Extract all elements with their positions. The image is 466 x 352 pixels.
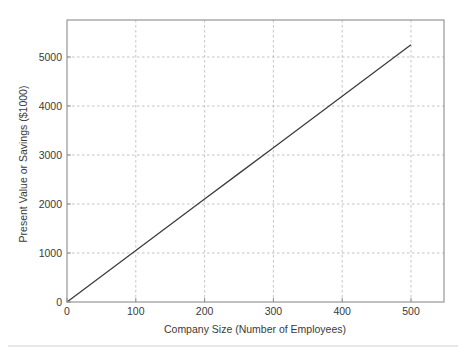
y-tick-label-5000: 5000 — [39, 51, 63, 63]
x-tick-labels: 0 100 200 300 400 500 — [64, 305, 420, 317]
x-tick-label-400: 400 — [333, 305, 351, 317]
figure-container: 0 1000 2000 3000 4000 5000 0 100 200 300… — [0, 0, 466, 352]
x-tick-label-0: 0 — [64, 305, 70, 317]
y-tick-label-1000: 1000 — [39, 247, 63, 259]
y-tick-label-3000: 3000 — [39, 149, 63, 161]
y-tick-label-4000: 4000 — [39, 100, 63, 112]
x-axis-title: Company Size (Number of Employees) — [164, 323, 346, 335]
line-chart: 0 1000 2000 3000 4000 5000 0 100 200 300… — [0, 0, 466, 352]
y-axis-title: Present Value or Savings ($1000) — [17, 86, 29, 243]
x-tick-label-500: 500 — [402, 305, 420, 317]
x-tick-label-200: 200 — [196, 305, 214, 317]
y-tick-labels: 0 1000 2000 3000 4000 5000 — [39, 51, 63, 308]
y-tick-label-2000: 2000 — [39, 198, 63, 210]
x-tick-label-300: 300 — [265, 305, 283, 317]
y-tick-label-0: 0 — [56, 296, 62, 308]
x-tick-label-100: 100 — [127, 305, 145, 317]
